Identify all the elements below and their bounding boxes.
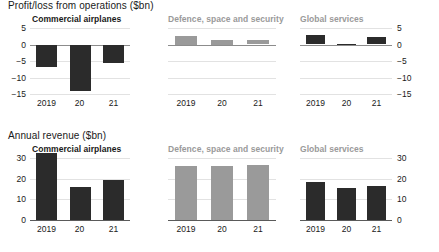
bar <box>367 37 386 44</box>
x-axis-tick-2019: 2019 <box>300 99 331 108</box>
x-axis-tick-21: 21 <box>97 225 130 234</box>
bar <box>211 40 233 45</box>
y-axis-tick-right-0: 0 <box>397 41 402 50</box>
panel-title-global-services: Global services <box>300 144 364 154</box>
y-axis-tick-right--10: −10 <box>397 74 411 83</box>
y-axis-tick-right-10: 10 <box>397 195 406 204</box>
bar <box>103 180 124 220</box>
plot-area-revenue-defence <box>168 158 276 220</box>
y-axis-tick-left--15: −15 <box>0 90 26 99</box>
x-axis-tick-20: 20 <box>204 99 240 108</box>
y-axis-tick-right-20: 20 <box>397 175 406 184</box>
x-axis-tick-20: 20 <box>63 225 96 234</box>
x-axis-tick-20: 20 <box>331 99 362 108</box>
plot-area-profit-global-services <box>300 28 392 94</box>
y-axis-tick-right-5: 5 <box>397 24 402 33</box>
section-annual-revenue: Annual revenue ($bn) Commercial airplane… <box>0 130 439 252</box>
bar <box>247 165 269 220</box>
y-axis-tick-left-30: 30 <box>0 154 26 163</box>
bar <box>36 45 57 67</box>
gridline-30 <box>300 158 392 159</box>
gridline--5 <box>168 61 276 62</box>
plot-area-profit-defence <box>168 28 276 94</box>
gridline--15 <box>300 94 392 95</box>
y-axis-tick-left-10: 10 <box>0 195 26 204</box>
x-axis-tick-21: 21 <box>240 99 276 108</box>
bar <box>70 187 91 220</box>
gridline-5 <box>300 28 392 29</box>
y-axis-tick-left--5: −5 <box>0 57 26 66</box>
bar <box>103 45 124 63</box>
gridline-0 <box>168 220 276 221</box>
plot-area-revenue-commercial-airplanes <box>30 158 130 220</box>
y-axis-tick-right-0: 0 <box>397 216 402 225</box>
y-axis-tick-right-30: 30 <box>397 154 406 163</box>
gridline--10 <box>300 78 392 79</box>
gridline--15 <box>30 94 130 95</box>
gridline-0 <box>30 220 130 221</box>
x-axis-tick-2019: 2019 <box>30 99 63 108</box>
panel-title-global-services: Global services <box>300 14 364 24</box>
gridline-5 <box>30 28 130 29</box>
y-axis-tick-right--15: −15 <box>397 90 411 99</box>
bar <box>247 40 269 44</box>
x-axis-tick-21: 21 <box>361 225 392 234</box>
y-axis-tick-left-5: 5 <box>0 24 26 33</box>
plot-area-profit-commercial-airplanes <box>30 28 130 94</box>
gridline-0 <box>300 220 392 221</box>
y-axis-tick-left-20: 20 <box>0 175 26 184</box>
bar <box>175 166 197 220</box>
gridline--10 <box>168 78 276 79</box>
panel-title-defence: Defence, space and security <box>168 144 284 154</box>
bar <box>70 45 91 91</box>
x-axis-tick-21: 21 <box>240 225 276 234</box>
y-axis-tick-left-0: 0 <box>0 216 26 225</box>
x-axis-tick-21: 21 <box>361 99 392 108</box>
section-profit-loss: Profit/loss from operations ($bn) Commer… <box>0 0 439 126</box>
gridline--15 <box>168 94 276 95</box>
plot-area-revenue-global-services <box>300 158 392 220</box>
bar <box>211 166 233 220</box>
gridline-5 <box>168 28 276 29</box>
gridline--5 <box>300 61 392 62</box>
panel-title-commercial-airplanes: Commercial airplanes <box>32 14 121 24</box>
bar <box>306 182 325 220</box>
section-heading-profit: Profit/loss from operations ($bn) <box>8 0 154 11</box>
x-axis-tick-2019: 2019 <box>300 225 331 234</box>
gridline-30 <box>168 158 276 159</box>
section-heading-revenue: Annual revenue ($bn) <box>8 130 106 141</box>
x-axis-tick-2019: 2019 <box>168 99 204 108</box>
bar <box>306 35 325 44</box>
x-axis-tick-2019: 2019 <box>30 225 63 234</box>
panel-title-defence: Defence, space and security <box>168 14 284 24</box>
x-axis-tick-20: 20 <box>331 225 362 234</box>
y-axis-tick-left--10: −10 <box>0 74 26 83</box>
x-axis-tick-21: 21 <box>97 99 130 108</box>
x-axis-tick-20: 20 <box>63 99 96 108</box>
bar <box>36 153 57 220</box>
bar <box>337 44 356 45</box>
gridline-20 <box>300 179 392 180</box>
y-axis-tick-right--5: −5 <box>397 57 407 66</box>
bar <box>337 188 356 220</box>
x-axis-tick-2019: 2019 <box>168 225 204 234</box>
y-axis-tick-left-0: 0 <box>0 41 26 50</box>
gridline-0 <box>168 45 276 46</box>
gridline-0 <box>300 45 392 46</box>
bar <box>367 186 386 220</box>
x-axis-tick-20: 20 <box>204 225 240 234</box>
bar <box>175 36 197 45</box>
